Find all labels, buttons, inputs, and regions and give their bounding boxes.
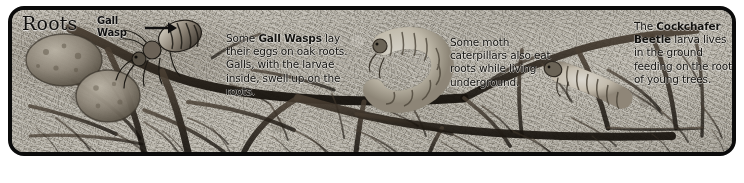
- roots-illustration-panel: Roots Gall Wasp Some Gall Wasps lay thei…: [8, 6, 736, 156]
- callout-label-line1: Gall: [97, 15, 118, 26]
- page-title: Roots: [22, 12, 78, 34]
- oak-gall-small: [76, 70, 140, 122]
- callout-label-line2: Wasp: [97, 27, 127, 38]
- text-gall-lead: Some: [226, 32, 258, 44]
- text-block-gall-wasps: Some Gall Wasps lay their eggs on oak ro…: [226, 32, 348, 98]
- text-block-cockchafer-beetle: The Cockchafer Beetle larva lives in the…: [634, 20, 736, 86]
- text-moth-rest: Some moth caterpillars also eat roots wh…: [450, 36, 551, 88]
- text-beetle-lead: The: [634, 20, 656, 32]
- text-block-moth-caterpillars: Some moth caterpillars also eat roots wh…: [450, 36, 562, 89]
- right-arrow-icon: [144, 21, 178, 35]
- text-gall-bold: Gall Wasps: [258, 32, 321, 44]
- moth-caterpillar-grub: [369, 32, 442, 106]
